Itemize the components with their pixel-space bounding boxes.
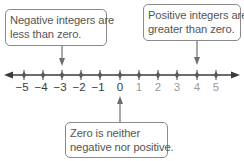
- tick-diamond-icon: [59, 72, 64, 78]
- callout-negative-line2: less than zero.: [10, 27, 102, 41]
- left-arrow-icon: [4, 72, 13, 79]
- callout-negative-integers: Negative integers are less than zero.: [5, 9, 107, 46]
- callout-zero: Zero is neither negative nor positive.: [65, 122, 168, 158]
- zero-pointer-arrowhead-icon: [117, 96, 123, 104]
- callout-zero-line2: negative nor positive.: [70, 140, 163, 154]
- tick-diamond-icon: [40, 72, 45, 78]
- tick-diamond-icon: [97, 72, 102, 78]
- tick-label: 1: [136, 81, 142, 93]
- positive-pointer-arrowhead-icon: [194, 57, 200, 65]
- right-arrow-icon: [231, 72, 240, 79]
- tick-label: 4: [194, 81, 201, 93]
- tick-diamond-icon: [21, 72, 26, 78]
- tick-diamond-icon: [155, 72, 160, 78]
- tick-diamond-icon: [174, 72, 179, 78]
- callout-positive-integers: Positive integers are greater than zero.: [143, 4, 241, 41]
- tick-labels: −5−4−3−2−1012345: [15, 81, 219, 93]
- tick-label: −2: [72, 81, 85, 93]
- tick-label: −1: [91, 81, 104, 93]
- tick-label: −4: [34, 81, 48, 93]
- callout-negative-line1: Negative integers are: [10, 13, 102, 27]
- tick-label: 0: [117, 81, 123, 93]
- tick-diamond-icon: [194, 72, 199, 78]
- tick-label: −5: [15, 81, 28, 93]
- tick-diamond-icon: [78, 72, 83, 78]
- tick-diamond-icon: [136, 72, 141, 78]
- callout-positive-line2: greater than zero.: [148, 22, 236, 36]
- tick-label: −3: [53, 81, 66, 93]
- tick-label: 3: [174, 81, 180, 93]
- tick-diamond-icon: [213, 72, 218, 78]
- tick-label: 5: [213, 81, 219, 93]
- tick-label: 2: [155, 81, 161, 93]
- negative-pointer-arrowhead-icon: [59, 58, 65, 66]
- callout-zero-line1: Zero is neither: [70, 126, 163, 140]
- callout-positive-line1: Positive integers are: [148, 8, 236, 22]
- tick-diamond-icon: [117, 72, 122, 78]
